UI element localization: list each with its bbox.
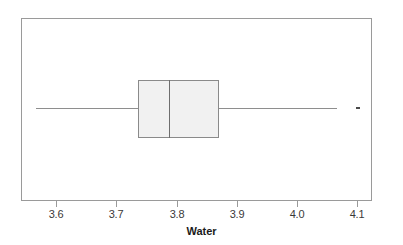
tick-label-3-8: 3.8 — [157, 208, 197, 220]
tick-mark-3-8 — [177, 201, 178, 207]
right-whisker — [218, 108, 337, 109]
x-axis-title: Water — [0, 225, 403, 237]
tick-label-3-6: 3.6 — [36, 208, 76, 220]
tick-mark-3-9 — [237, 201, 238, 207]
outlier-marker — [356, 107, 360, 109]
tick-mark-4-0 — [297, 201, 298, 207]
tick-mark-3-7 — [116, 201, 117, 207]
tick-label-3-9: 3.9 — [217, 208, 257, 220]
boxplot-figure: 3.6 3.7 3.8 3.9 4.0 4.1 Water — [0, 0, 403, 245]
tick-label-4-0: 4.0 — [277, 208, 317, 220]
box-iqr — [138, 80, 219, 138]
median-line — [169, 80, 170, 138]
left-whisker — [36, 108, 139, 109]
tick-label-3-7: 3.7 — [96, 208, 136, 220]
tick-mark-3-6 — [56, 201, 57, 207]
tick-mark-4-1 — [357, 201, 358, 207]
tick-label-4-1: 4.1 — [337, 208, 377, 220]
